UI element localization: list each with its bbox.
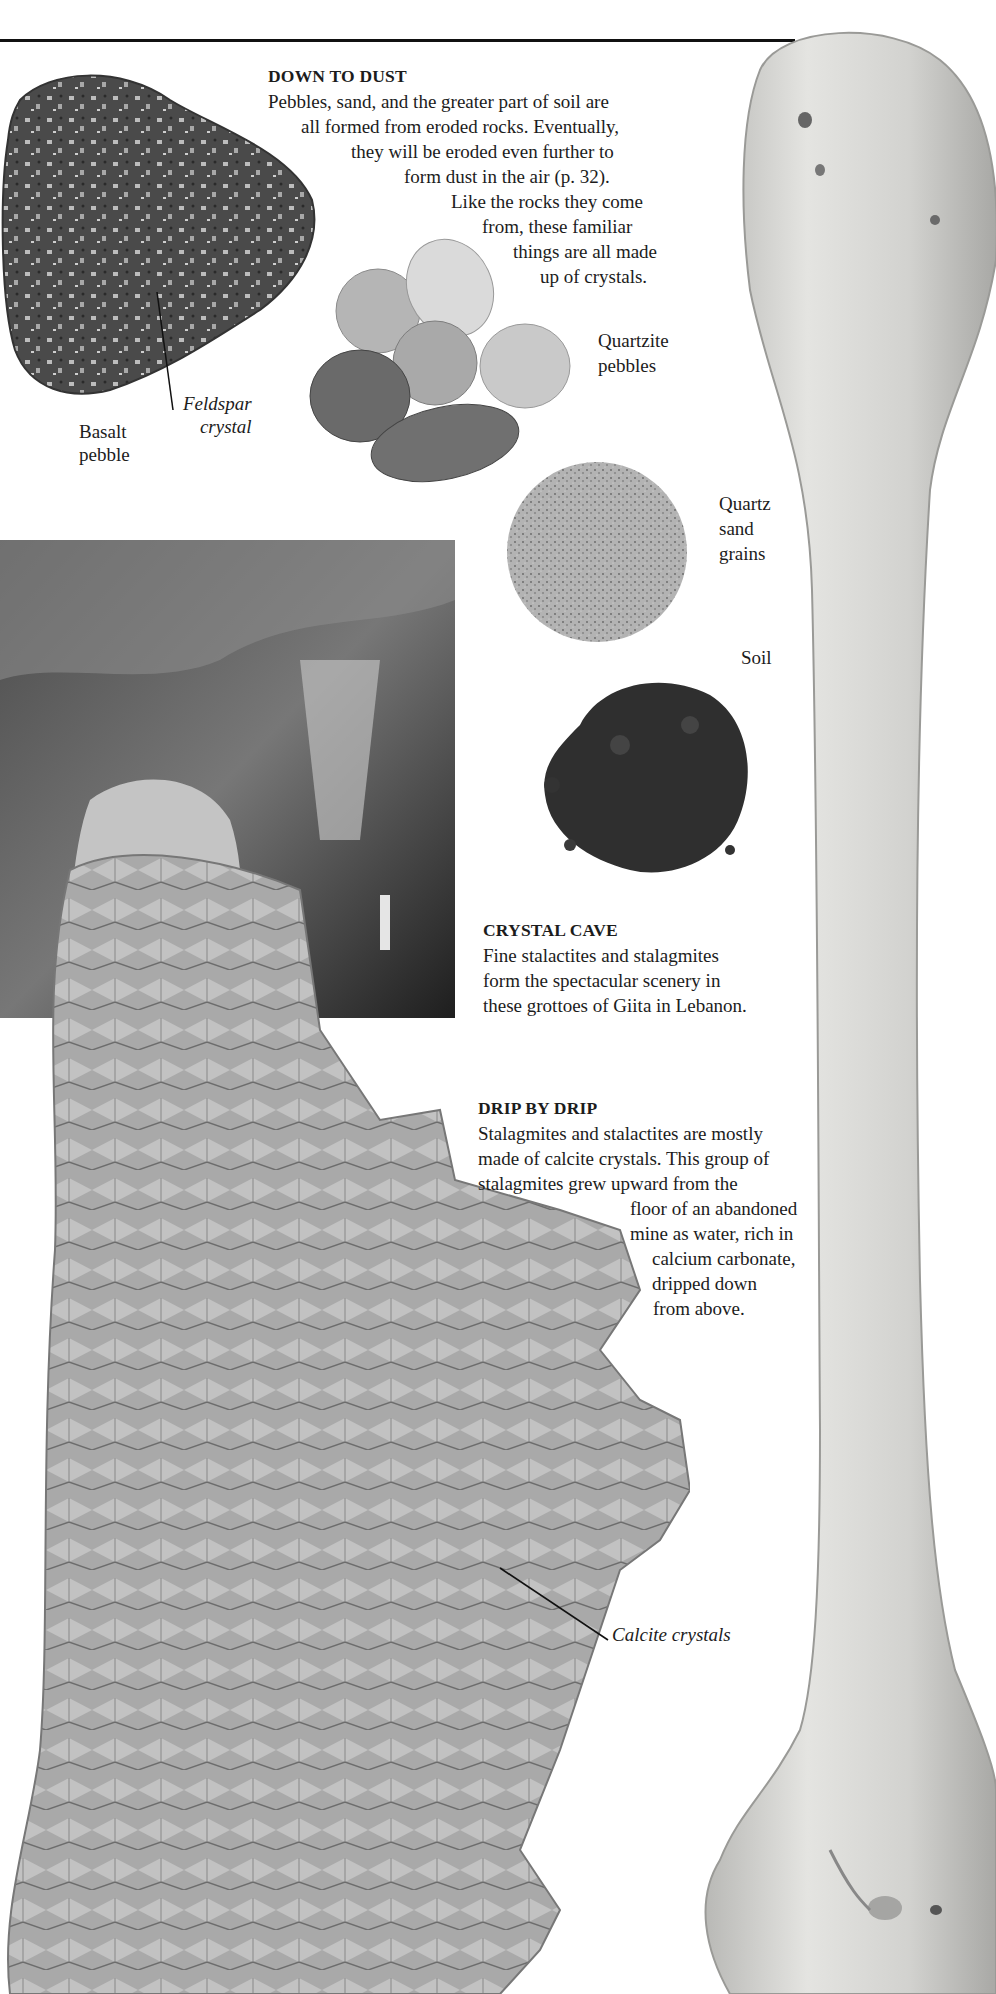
caption-line: form dust in the air (p. 32). [404, 164, 688, 189]
quartz-sand-image [505, 460, 690, 645]
caption-heading: DOWN TO DUST [268, 64, 688, 89]
label-line: pebble [79, 443, 130, 466]
caption-line: all formed from eroded rocks. Eventually… [301, 114, 688, 139]
caption-line: dripped down [652, 1271, 797, 1296]
calcite-stalagmites-image [0, 850, 690, 1994]
label-line: Quartz [719, 491, 771, 516]
label-line: Feldspar [183, 392, 252, 415]
top-rule [0, 39, 795, 42]
label-line: grains [719, 541, 771, 566]
caption-heading: DRIP BY DRIP [478, 1096, 797, 1121]
caption-line: Stalagmites and stalactites are mostly [478, 1121, 797, 1146]
caption-line: floor of an abandoned [630, 1196, 797, 1221]
caption-line: mine as water, rich in [630, 1221, 797, 1246]
label-line: Basalt [79, 420, 130, 443]
caption-line: made of calcite crystals. This group of [478, 1146, 797, 1171]
label-line: sand [719, 516, 771, 541]
feldspar-crystal-label: Feldspar crystal [183, 392, 252, 438]
caption-line: Like the rocks they come [451, 189, 688, 214]
label-line: crystal [183, 415, 252, 438]
quartzite-pebbles-image [305, 238, 595, 488]
label-line: Soil [741, 647, 772, 668]
caption-line: from above. [653, 1296, 797, 1321]
caption-line: calcium carbonate, [652, 1246, 797, 1271]
soil-image [540, 665, 755, 880]
soil-label: Soil [741, 645, 772, 670]
label-line: pebbles [598, 353, 669, 378]
label-line: Quartzite [598, 328, 669, 353]
drip-by-drip-caption: DRIP BY DRIP Stalagmites and stalactites… [478, 1096, 797, 1321]
calcite-crystals-label: Calcite crystals [612, 1622, 731, 1647]
caption-line: Pebbles, sand, and the greater part of s… [268, 89, 688, 114]
quartzite-pebbles-label: Quartzite pebbles [598, 328, 669, 378]
label-line: Calcite crystals [612, 1624, 731, 1645]
quartz-sand-label: Quartz sand grains [719, 491, 771, 566]
caption-line: they will be eroded even further to [351, 139, 688, 164]
basalt-pebble-label: Basalt pebble [79, 420, 130, 466]
caption-line: from, these familiar [482, 214, 688, 239]
caption-line: stalagmites grew upward from the [478, 1171, 797, 1196]
